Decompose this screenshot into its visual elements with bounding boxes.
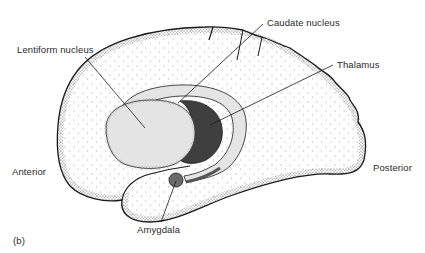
- label-amygdala: Amygdala: [137, 224, 180, 235]
- label-thalamus: Thalamus: [337, 59, 380, 70]
- label-anterior: Anterior: [12, 166, 46, 177]
- amygdala-shape: [169, 173, 183, 187]
- lentiform-nucleus-shape: [106, 100, 195, 169]
- label-posterior: Posterior: [373, 162, 412, 173]
- brain-illustration: [0, 0, 425, 253]
- panel-label: (b): [13, 235, 25, 246]
- basal-ganglia-diagram: Lentiform nucleus Caudate nucleus Thalam…: [0, 0, 425, 253]
- label-caudate-nucleus: Caudate nucleus: [267, 17, 340, 28]
- label-lentiform-nucleus: Lentiform nucleus: [17, 44, 94, 55]
